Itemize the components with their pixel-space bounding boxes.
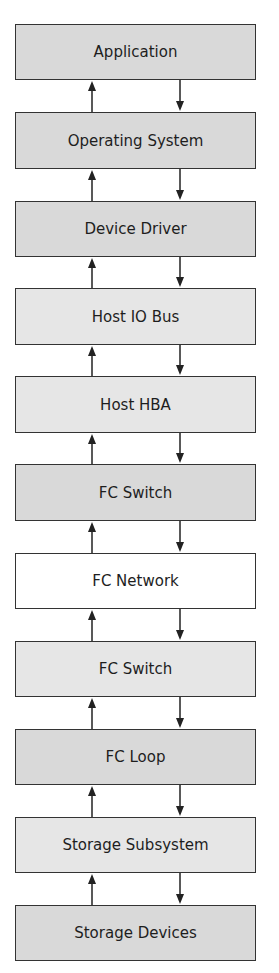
arrow-connectors [0, 0, 279, 973]
